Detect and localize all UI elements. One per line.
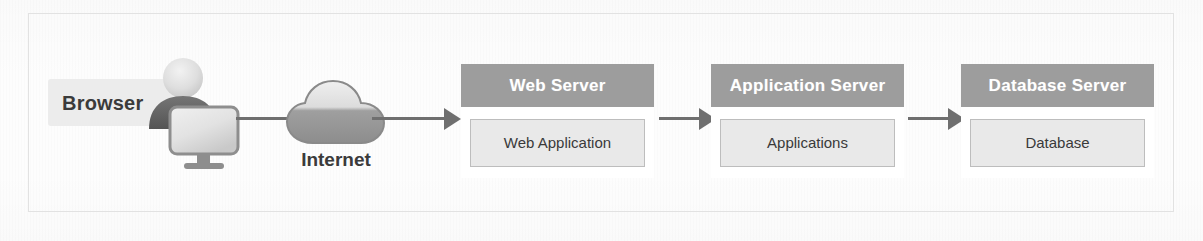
arrow-internet-to-web-server <box>372 108 462 130</box>
database-server-body: Database <box>961 107 1154 178</box>
application-server-header: Application Server <box>711 64 904 107</box>
web-server-box: Web Server Web Application <box>461 64 654 178</box>
arrow-shaft <box>372 117 446 120</box>
application-server-body: Applications <box>711 107 904 178</box>
arrow-shaft <box>908 117 950 120</box>
arrow-shaft <box>659 117 701 120</box>
web-application-component: Web Application <box>470 119 645 167</box>
web-server-body: Web Application <box>461 107 654 178</box>
arrow-application-server-to-database-server <box>908 108 966 130</box>
applications-component: Applications <box>720 119 895 167</box>
web-server-header: Web Server <box>461 64 654 107</box>
application-server-box: Application Server Applications <box>711 64 904 178</box>
internet-label: Internet <box>277 148 395 172</box>
database-server-box: Database Server Database <box>961 64 1154 178</box>
database-component: Database <box>970 119 1145 167</box>
arrow-web-server-to-application-server <box>659 108 717 130</box>
architecture-diagram-canvas: Browser <box>0 0 1203 241</box>
arrow-head <box>444 108 461 130</box>
database-server-header: Database Server <box>961 64 1154 107</box>
monitor-icon <box>168 105 240 173</box>
